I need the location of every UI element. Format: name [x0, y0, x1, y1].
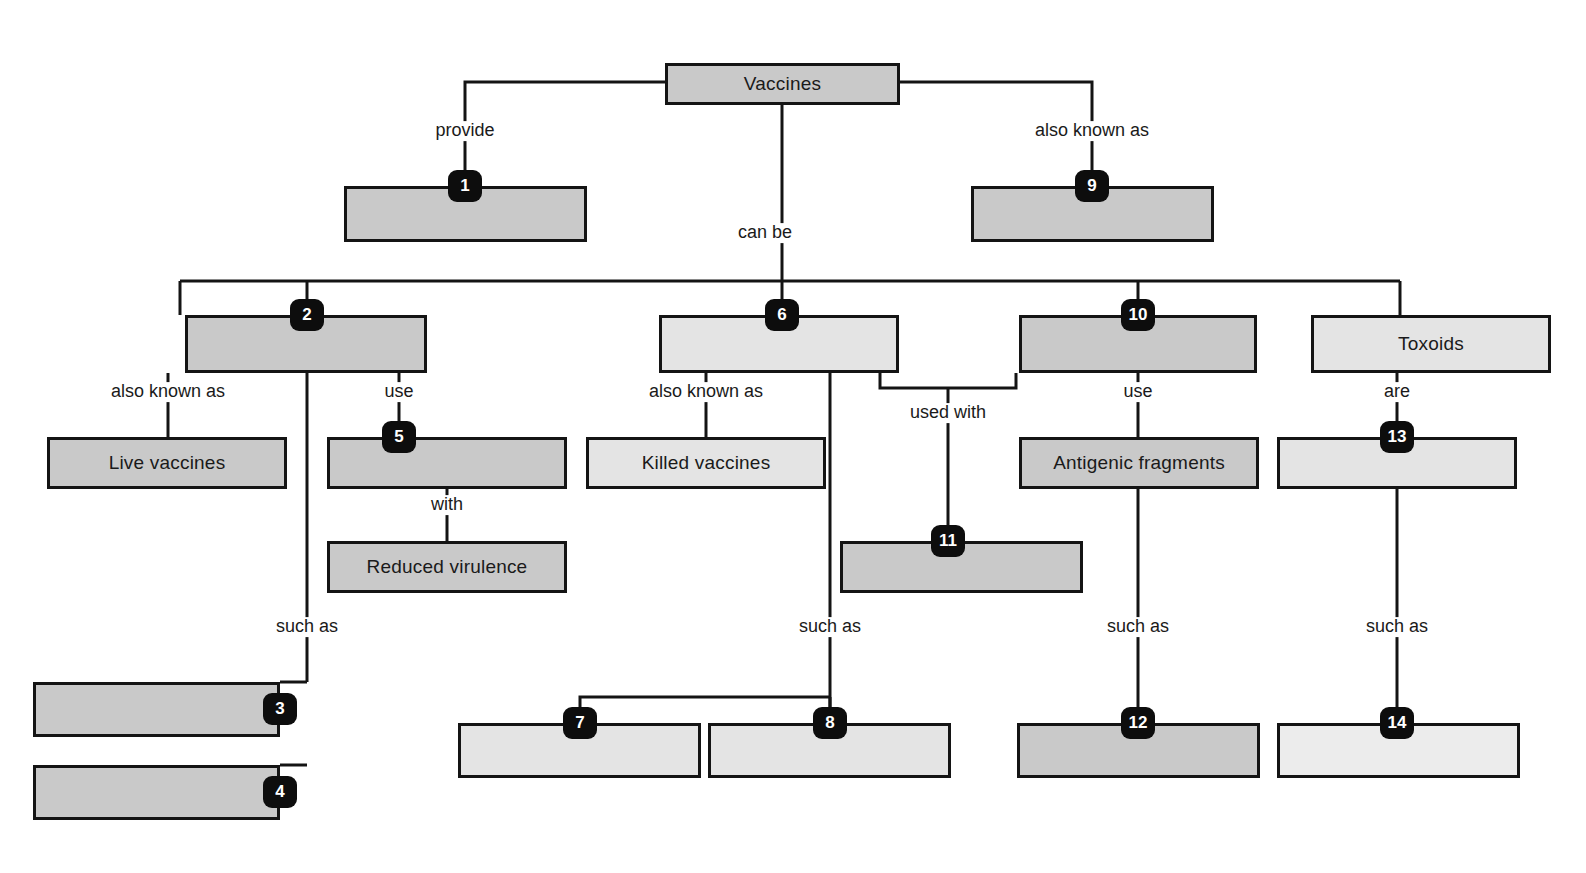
- node-vaccines[interactable]: Vaccines: [665, 63, 900, 105]
- node-label: Reduced virulence: [367, 556, 528, 578]
- node-n3[interactable]: [33, 682, 280, 737]
- node-label: Toxoids: [1398, 333, 1464, 355]
- badge-1[interactable]: 1: [448, 170, 482, 202]
- edge-label-with: with: [426, 495, 468, 515]
- node-reduced[interactable]: Reduced virulence: [327, 541, 567, 593]
- node-toxoids[interactable]: Toxoids: [1311, 315, 1551, 373]
- badge-8[interactable]: 8: [813, 707, 847, 739]
- edge-label-such-as-78: such as: [794, 617, 866, 637]
- edge-label-can-be: can be: [733, 223, 797, 243]
- badge-14[interactable]: 14: [1380, 707, 1414, 739]
- edge-label-such-as-14: such as: [1361, 617, 1433, 637]
- node-n4[interactable]: [33, 765, 280, 820]
- edge-label-are-13: are: [1379, 382, 1415, 402]
- badge-7[interactable]: 7: [563, 707, 597, 739]
- badge-9[interactable]: 9: [1075, 170, 1109, 202]
- edge-label-also-6: also known as: [644, 382, 768, 402]
- node-killed[interactable]: Killed vaccines: [586, 437, 826, 489]
- edge-label-also-9: also known as: [1030, 121, 1154, 141]
- node-antigenic[interactable]: Antigenic fragments: [1019, 437, 1259, 489]
- edge-label-use-5: use: [379, 382, 418, 402]
- badge-5[interactable]: 5: [382, 421, 416, 453]
- node-label: Killed vaccines: [642, 452, 771, 474]
- concept-map-canvas: VaccinesToxoidsLive vaccinesKilled vacci…: [0, 0, 1586, 873]
- node-n5[interactable]: [327, 437, 567, 489]
- badge-3[interactable]: 3: [263, 693, 297, 725]
- node-live[interactable]: Live vaccines: [47, 437, 287, 489]
- badge-10[interactable]: 10: [1121, 299, 1155, 331]
- edge-label-such-as-34: such as: [271, 617, 343, 637]
- badge-6[interactable]: 6: [765, 299, 799, 331]
- edge-label-such-as-12: such as: [1102, 617, 1174, 637]
- connector-line: [880, 373, 1016, 388]
- edge-label-use-12: use: [1118, 382, 1157, 402]
- badge-2[interactable]: 2: [290, 299, 324, 331]
- badge-13[interactable]: 13: [1380, 421, 1414, 453]
- edge-label-used-with: used with: [905, 403, 991, 423]
- badge-11[interactable]: 11: [931, 525, 965, 557]
- badge-12[interactable]: 12: [1121, 707, 1155, 739]
- edge-label-also-2: also known as: [106, 382, 230, 402]
- badge-4[interactable]: 4: [263, 776, 297, 808]
- node-label: Live vaccines: [109, 452, 226, 474]
- edge-label-provide: provide: [430, 121, 499, 141]
- node-label: Vaccines: [744, 73, 821, 95]
- node-label: Antigenic fragments: [1053, 452, 1225, 474]
- connector-line: [580, 697, 830, 723]
